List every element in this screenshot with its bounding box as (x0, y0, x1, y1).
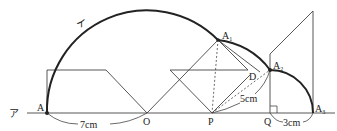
trapezoid-initial (47, 70, 147, 113)
point-a (45, 111, 49, 115)
dim-curve-pa2b (255, 70, 270, 94)
label-arc-i: イ (76, 18, 86, 29)
arc-a2-a3 (270, 70, 313, 113)
measure-ao: 7cm (80, 119, 97, 130)
dim-curve-pa2 (212, 103, 240, 113)
edge-a1-p (212, 40, 218, 113)
measure-qa3: 3cm (283, 117, 300, 128)
dim-curve-qa3b (303, 113, 313, 122)
label-A3: A3 (315, 103, 325, 115)
dim-curve-ao2 (110, 113, 147, 124)
right-angle-marker (270, 106, 277, 113)
label-line-a: ア (9, 108, 19, 119)
label-Q: Q (264, 116, 272, 127)
point-a1 (216, 38, 220, 42)
label-A1: A1 (222, 30, 232, 42)
dim-curve-qa3 (270, 113, 283, 122)
dim-curve-ao (47, 113, 78, 124)
label-A2: A2 (273, 60, 283, 72)
measure-pa2: 5cm (240, 93, 257, 104)
label-A: A (37, 102, 45, 113)
label-O: O (143, 116, 150, 127)
edge-p-a2 (212, 70, 270, 113)
point-a2 (268, 68, 272, 72)
geometry-diagram: ア イ A O P Q D A1 A2 A3 7cm 5cm 3cm (0, 0, 337, 131)
label-D: D (249, 71, 256, 82)
label-P: P (208, 116, 214, 127)
